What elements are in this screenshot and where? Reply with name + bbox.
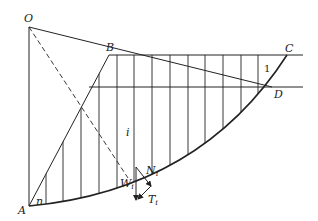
label-slice-n: n xyxy=(36,195,43,208)
label-B: B xyxy=(105,41,114,54)
label-N: Ni xyxy=(145,164,159,178)
label-O: O xyxy=(24,12,33,25)
label-slice-i: i xyxy=(126,126,130,139)
slice-lines xyxy=(46,40,258,215)
radius-line-OD xyxy=(29,27,272,87)
label-T: Ti xyxy=(148,193,158,207)
slip-surface-arc xyxy=(29,55,287,206)
label-D: D xyxy=(273,88,283,101)
label-A: A xyxy=(17,204,26,217)
label-slice-1: 1 xyxy=(264,63,270,74)
label-C: C xyxy=(285,42,294,55)
label-W: Wi xyxy=(120,177,134,191)
slope-slices-diagram: O B C D A 1 i n Wi Ni Ti xyxy=(0,0,318,221)
